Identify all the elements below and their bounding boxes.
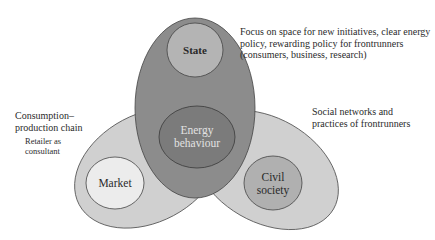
market-sub-annotation-line2: consultant bbox=[25, 146, 61, 156]
civil-society-label-line1: Civil bbox=[257, 171, 290, 184]
market-annotation-line2: production chain bbox=[15, 122, 82, 134]
energy-behaviour-label-line2: behaviour bbox=[174, 137, 220, 150]
market-annotation-line1: Consumption– bbox=[15, 110, 82, 122]
energy-behaviour-label: Energy behaviour bbox=[174, 124, 220, 149]
market-annotation: Consumption– production chain bbox=[15, 110, 82, 133]
state-annotation-line2: policy, rewarding policy for frontrunner… bbox=[240, 38, 430, 50]
state-label: State bbox=[183, 44, 207, 56]
state-annotation-line3: (consumers, business, research) bbox=[240, 49, 430, 61]
civil-society-label-line2: society bbox=[257, 184, 290, 197]
civil-annotation-line2: practices of frontrunners bbox=[312, 118, 410, 130]
market-sub-annotation: Retailer as consultant bbox=[25, 136, 61, 156]
civil-society-label: Civil society bbox=[257, 171, 290, 196]
civil-annotation-line1: Social networks and bbox=[312, 106, 410, 118]
civil-annotation: Social networks and practices of frontru… bbox=[312, 106, 410, 129]
market-sub-annotation-line1: Retailer as bbox=[25, 136, 61, 146]
state-annotation-line1: Focus on space for new initiatives, clea… bbox=[240, 26, 430, 38]
state-annotation: Focus on space for new initiatives, clea… bbox=[240, 26, 430, 61]
market-label: Market bbox=[98, 177, 131, 190]
energy-behaviour-label-line1: Energy bbox=[174, 124, 220, 137]
